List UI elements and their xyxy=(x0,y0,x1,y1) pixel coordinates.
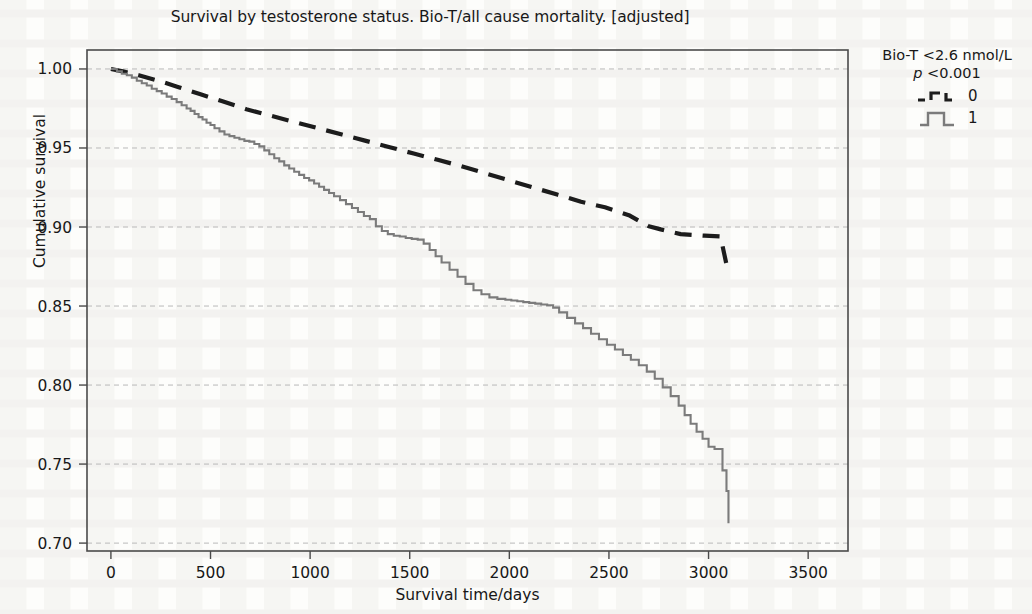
y-tick-label: 0.90 xyxy=(37,219,72,237)
y-tick-label: 0.70 xyxy=(37,535,72,553)
x-tick-label: 0 xyxy=(106,564,116,582)
y-tick-label: 0.80 xyxy=(37,377,72,395)
legend-item-0[interactable]: 0 xyxy=(862,86,1032,106)
solid-step-line-icon xyxy=(916,108,962,128)
legend: Bio-T <2.6 nmol/L p <0.001 0 1 xyxy=(862,46,1032,128)
y-tick-label: 0.85 xyxy=(37,298,72,316)
x-axis-ticks: 0500100015002000250030003500 xyxy=(106,551,828,582)
x-tick-label: 500 xyxy=(196,564,226,582)
dashed-step-line-icon xyxy=(916,86,962,106)
plot-frame xyxy=(87,50,848,551)
legend-title: Bio-T <2.6 nmol/L xyxy=(862,46,1032,64)
series-lines xyxy=(111,69,729,523)
x-tick-label: 1000 xyxy=(290,564,329,582)
x-tick-label: 2000 xyxy=(490,564,529,582)
x-tick-label: 3500 xyxy=(788,564,827,582)
y-axis-ticks: 0.700.750.800.850.900.951.00 xyxy=(37,60,87,552)
y-tick-label: 0.75 xyxy=(37,456,72,474)
y-tick-label: 0.95 xyxy=(37,139,72,157)
x-tick-label: 2500 xyxy=(589,564,628,582)
x-tick-label: 1500 xyxy=(390,564,429,582)
legend-label-1: 1 xyxy=(968,109,978,127)
survival-chart-figure: Survival by testosterone status. Bio-T/a… xyxy=(0,0,1032,614)
series-line-1 xyxy=(111,69,729,523)
grid-lines xyxy=(87,69,848,543)
legend-pvalue-value: <0.001 xyxy=(922,65,980,81)
y-tick-label: 1.00 xyxy=(37,60,72,78)
legend-label-0: 0 xyxy=(968,87,978,105)
legend-item-1[interactable]: 1 xyxy=(862,108,1032,128)
axes-frame xyxy=(87,50,848,551)
series-line-0 xyxy=(111,69,729,274)
x-tick-label: 3000 xyxy=(689,564,728,582)
legend-pvalue: p <0.001 xyxy=(862,64,1032,84)
